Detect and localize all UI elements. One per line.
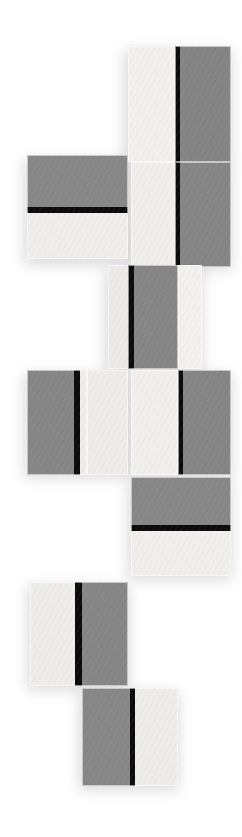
tile-band-dark	[131, 477, 231, 525]
fourth-row-dark-panel-with-right-bar	[27, 370, 87, 475]
tile-band-light	[131, 162, 175, 267]
fourth-row-dark-panel-with-left-bar	[178, 370, 231, 475]
tile-band-light	[131, 370, 178, 475]
third-row-light-right-panel	[178, 265, 202, 369]
tile-band-light	[178, 265, 202, 369]
third-row-dark-panel-with-left-bar	[128, 265, 178, 369]
tile-band-dark	[134, 265, 178, 369]
top-dark-panel-with-left-bar	[175, 46, 231, 162]
tile-band-dark	[180, 162, 231, 267]
seventh-row-panel-dark-then-light	[82, 688, 178, 786]
tile-band-black	[75, 582, 82, 686]
fourth-row-light-panel-a	[87, 370, 128, 475]
second-row-light-panel	[131, 162, 175, 267]
tile-band-light	[30, 582, 75, 686]
tile-band-dark	[82, 582, 128, 686]
tile-band-light	[87, 370, 128, 475]
tile-band-dark	[27, 155, 128, 207]
second-row-wide-split-panel	[27, 155, 128, 259]
tile-band-dark	[180, 46, 231, 162]
second-row-dark-panel-with-left-bar	[175, 162, 231, 267]
tile-band-dark	[183, 370, 231, 475]
top-light-panel	[128, 46, 175, 162]
tile-band-dark	[82, 688, 130, 786]
tile-band-light	[108, 265, 129, 369]
tile-band-light	[128, 46, 175, 162]
fifth-row-wide-split-panel	[131, 477, 231, 576]
fourth-row-light-panel-b	[131, 370, 178, 475]
third-row-light-left-panel	[108, 265, 129, 369]
tile-band-light	[135, 688, 178, 786]
tile-band-dark	[27, 370, 74, 475]
artwork-canvas	[0, 0, 242, 837]
sixth-row-panel-light-then-dark	[30, 582, 128, 686]
tile-band-light	[27, 213, 128, 259]
tile-band-light	[80, 370, 87, 475]
tile-band-light	[131, 531, 231, 576]
